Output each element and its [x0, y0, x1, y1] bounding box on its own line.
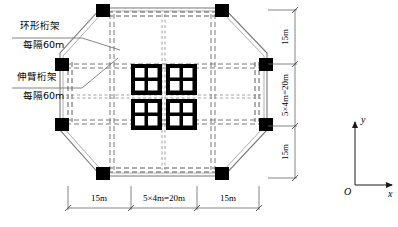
column-east-north — [259, 58, 273, 71]
outrigger-truss-label-line2: 每隔60m — [23, 90, 64, 101]
coordinate-axes: y x O — [344, 114, 393, 199]
column-east-south — [259, 118, 273, 131]
core-block-top-left — [131, 64, 162, 95]
octagon-outer-edge — [60, 8, 267, 176]
core-cell — [170, 116, 180, 126]
outrigger-truss-label-line1: 伸臂桁架 — [17, 71, 57, 82]
core-cell — [183, 68, 193, 78]
x-axis-label: x — [387, 188, 393, 199]
right-dim-label-3: 15m — [280, 144, 290, 160]
bottom-dim-label-1: 15m — [91, 193, 107, 203]
core-cell — [183, 81, 193, 91]
core-cell — [148, 68, 158, 78]
core-cell — [148, 116, 158, 126]
core-cell — [170, 68, 180, 78]
core-cell — [148, 81, 158, 91]
right-dimension-labels: 15m 5×4m=20m 15m — [280, 29, 290, 160]
annotation-ring-truss: 环形桁架 每隔60m — [20, 20, 64, 50]
octagon-outline — [60, 8, 267, 176]
floor-plan-diagram: 环形桁架 每隔60m 伸臂桁架 每隔60m 15m 5×4m=20m 15m — [0, 0, 398, 227]
ring-truss-label-line2: 每隔60m — [23, 39, 64, 50]
core-cell — [183, 103, 193, 113]
core-cell — [135, 103, 145, 113]
column-south-west — [96, 167, 110, 180]
bottom-dimension-labels: 15m 5×4m=20m 15m — [91, 193, 236, 203]
bottom-dim-label-2: 5×4m=20m — [143, 193, 185, 203]
origin-label: O — [344, 186, 351, 197]
core-cell — [183, 116, 193, 126]
core-block-top-right — [166, 64, 197, 95]
perimeter-dashed-lines — [68, 12, 259, 172]
corner-columns — [55, 4, 273, 180]
core-center-dashes — [66, 14, 261, 170]
bottom-dim-label-3: 15m — [220, 193, 236, 203]
column-south-east — [215, 167, 229, 180]
core-cell — [135, 116, 145, 126]
core-cell — [135, 68, 145, 78]
y-axis-label: y — [360, 114, 366, 125]
column-north-west — [96, 4, 110, 17]
ring-truss-label-line1: 环形桁架 — [20, 20, 60, 31]
core-cell — [135, 81, 145, 91]
octagon-inner-edge — [63, 11, 264, 173]
frame-grid-vertical — [110, 14, 215, 170]
core-cell — [170, 103, 180, 113]
right-dim-label-1: 15m — [280, 29, 290, 45]
column-west-south — [55, 118, 69, 131]
core-cell — [148, 103, 158, 113]
core-block-bottom-left — [131, 99, 162, 130]
frame-grid-horizontal — [66, 64, 261, 124]
annotation-outrigger-truss: 伸臂桁架 每隔60m — [17, 71, 64, 101]
right-dim-label-2: 5×4m=20m — [280, 74, 290, 116]
core-block-bottom-right — [166, 99, 197, 130]
column-west-north — [55, 58, 69, 71]
core-cell — [170, 81, 180, 91]
column-north-east — [215, 4, 229, 17]
